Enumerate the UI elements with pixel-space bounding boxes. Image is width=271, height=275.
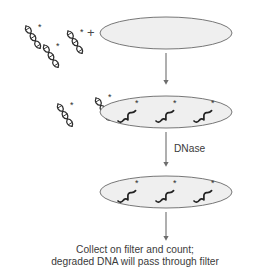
radiolabel-star-icon: * — [56, 41, 60, 51]
radiolabel-star-icon: * — [70, 100, 74, 110]
stage-2-bound: * * * * * — [56, 92, 232, 128]
caption-line-2: degraded DNA will pass through filter — [51, 256, 219, 267]
radiolabel-star-icon: * — [211, 178, 215, 188]
stage-3-digested: * * * — [100, 176, 232, 208]
filter-binding-assay-diagram: * * * + * * — [0, 0, 271, 275]
enzyme-label: DNase — [174, 143, 205, 154]
figure-root: * * * + * * — [0, 0, 271, 275]
radiolabel-star-icon: * — [211, 98, 215, 108]
stage-1-mixing: * * * + — [24, 17, 232, 69]
radiolabel-star-icon: * — [173, 178, 177, 188]
radiolabel-star-icon: * — [80, 27, 84, 37]
radiolabel-star-icon: * — [173, 98, 177, 108]
vessel-stage-1 — [100, 17, 232, 49]
radiolabel-star-icon: * — [38, 22, 42, 32]
radiolabel-star-icon: * — [108, 92, 112, 102]
plus-sign: + — [87, 25, 95, 40]
radiolabel-star-icon: * — [135, 178, 139, 188]
radiolabel-star-icon: * — [135, 98, 139, 108]
caption-line-1: Collect on filter and count; — [76, 244, 194, 255]
